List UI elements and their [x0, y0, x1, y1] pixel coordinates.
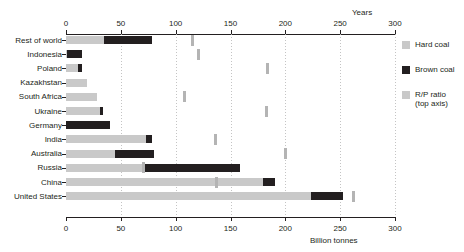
top-axis-tick [340, 30, 341, 34]
bar-segment-brown-coal [78, 64, 82, 72]
category-label: United States [0, 192, 62, 201]
legend-label-hard-coal: Hard coal [415, 40, 449, 50]
bottom-axis-tick-label: 300 [375, 224, 415, 233]
category-label: Rest of world [0, 36, 62, 45]
legend-sublabel-rp-ratio: (top axis) [415, 99, 448, 109]
bar-segment-hard-coal [66, 135, 146, 143]
bottom-axis-tick [231, 217, 232, 221]
bar-segment-hard-coal [66, 107, 100, 115]
category-label: Ukraine [0, 107, 62, 116]
bottom-axis-tick-label: 250 [320, 224, 360, 233]
bottom-axis-tick-label: 0 [46, 224, 86, 233]
bar-segment-brown-coal [311, 192, 344, 200]
bar-segment-hard-coal [66, 36, 104, 44]
rp-ratio-marker [266, 63, 269, 74]
top-axis-tick-label: 250 [320, 19, 360, 28]
top-axis-tick [231, 30, 232, 34]
rp-ratio-swatch-icon [402, 91, 410, 99]
rp-ratio-marker [142, 162, 145, 173]
bottom-axis-tick-label: 200 [265, 224, 305, 233]
bottom-axis-tick [176, 217, 177, 221]
legend-label-brown-coal: Brown coal [415, 65, 455, 75]
category-label: Poland [0, 64, 62, 73]
rp-ratio-marker [215, 177, 218, 188]
legend-item-hard-coal: Hard coal [402, 40, 464, 49]
bottom-axis-tick [285, 217, 286, 221]
hard-coal-swatch-icon [402, 41, 410, 49]
bottom-axis-unit-label: Billion tonnes [310, 236, 358, 245]
rp-ratio-marker [197, 49, 200, 60]
top-axis-tick [121, 30, 122, 34]
category-label: China [0, 178, 62, 187]
gridline [121, 34, 122, 216]
bottom-axis-tick-label: 150 [211, 224, 251, 233]
bar-segment-brown-coal [263, 178, 275, 186]
bar-segment-hard-coal [66, 192, 311, 200]
rp-ratio-marker [352, 191, 355, 202]
category-label: India [0, 135, 62, 144]
chart-legend: Hard coal Brown coal R/P ratio (top axis… [402, 40, 464, 115]
bar-segment-brown-coal [67, 50, 82, 58]
brown-coal-swatch-icon [402, 66, 410, 74]
top-axis-tick-label: 100 [156, 19, 196, 28]
legend-item-rp-ratio: R/P ratio (top axis) [402, 90, 464, 99]
bottom-axis-tick [66, 217, 67, 221]
category-label: Russia [0, 163, 62, 172]
bar-segment-hard-coal [66, 79, 87, 87]
gridline [285, 34, 286, 216]
gridline [176, 34, 177, 216]
rp-ratio-marker [191, 35, 194, 46]
top-axis-tick [66, 30, 67, 34]
bottom-axis-tick-label: 50 [101, 224, 141, 233]
category-label: Germany [0, 121, 62, 130]
category-label: Australia [0, 149, 62, 158]
bar-segment-brown-coal [66, 121, 110, 129]
rp-ratio-marker [214, 134, 217, 145]
bar-segment-hard-coal [66, 150, 115, 158]
bar-segment-brown-coal [100, 107, 103, 115]
legend-item-brown-coal: Brown coal [402, 65, 464, 74]
category-label: Kazakhstan [0, 78, 62, 87]
top-axis-tick [285, 30, 286, 34]
bottom-axis-tick [395, 217, 396, 221]
bottom-axis-tick [340, 217, 341, 221]
category-label: Indonesia [0, 50, 62, 59]
bar-segment-brown-coal [142, 164, 241, 172]
top-axis-unit-label: Years [352, 8, 372, 17]
rp-ratio-marker [265, 106, 268, 117]
bottom-axis-tick [121, 217, 122, 221]
top-axis-tick [395, 30, 396, 34]
bar-segment-brown-coal [104, 36, 151, 44]
plot-area: Years Billion tonnes 050100150200250300 … [0, 0, 464, 252]
bar-segment-hard-coal [66, 178, 263, 186]
top-axis-tick-label: 50 [101, 19, 141, 28]
bar-segment-hard-coal [66, 64, 78, 72]
bottom-axis-tick-label: 100 [156, 224, 196, 233]
rp-ratio-marker [284, 148, 287, 159]
bar-segment-brown-coal [115, 150, 153, 158]
gridline [231, 34, 232, 216]
top-axis-tick-label: 150 [211, 19, 251, 28]
top-axis-tick-label: 300 [375, 19, 415, 28]
top-axis-tick-label: 200 [265, 19, 305, 28]
coal-reserves-chart: Years Billion tonnes 050100150200250300 … [0, 0, 464, 252]
top-axis-tick [176, 30, 177, 34]
bar-segment-brown-coal [146, 135, 151, 143]
gridline [395, 34, 396, 216]
category-label: South Africa [0, 92, 62, 101]
top-axis-tick-label: 0 [46, 19, 86, 28]
rp-ratio-marker [183, 91, 186, 102]
bar-segment-hard-coal [66, 164, 142, 172]
gridline [340, 34, 341, 216]
bar-segment-hard-coal [66, 93, 97, 101]
